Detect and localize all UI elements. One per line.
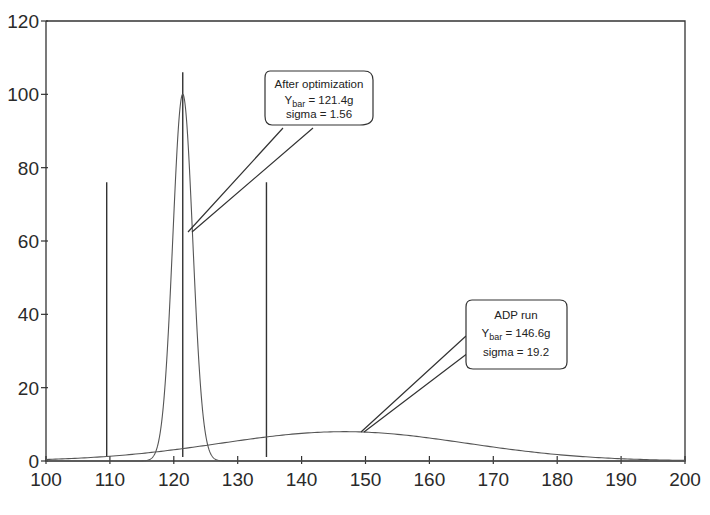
- callout-pointer: [188, 128, 313, 232]
- callout-title: ADP run: [494, 309, 537, 321]
- x-tick-label: 100: [30, 469, 62, 490]
- x-tick-label: 140: [286, 469, 318, 490]
- distribution-curves: [46, 94, 685, 461]
- y-tick-label: 20: [18, 378, 39, 399]
- spec-lines: [107, 72, 267, 457]
- adp-run-callout: ADP run Ybar = 146.6g sigma = 19.2: [361, 300, 567, 432]
- x-tick-label: 200: [669, 469, 701, 490]
- x-tick-label: 170: [477, 469, 509, 490]
- x-tick-label: 180: [541, 469, 573, 490]
- x-tick-label: 150: [350, 469, 382, 490]
- y-tick-label: 80: [18, 158, 39, 179]
- y-tick-label: 40: [18, 304, 39, 325]
- y-tick-label: 100: [7, 84, 39, 105]
- curve-after-optimization: [46, 94, 685, 461]
- x-tick-label: 190: [605, 469, 637, 490]
- callout-pointer: [361, 336, 468, 432]
- callout-title: After optimization: [275, 78, 364, 90]
- y-tick-label: 60: [18, 231, 39, 252]
- callout-sigma: sigma = 19.2: [483, 346, 549, 358]
- callout-sigma: sigma = 1.56: [286, 108, 352, 120]
- x-tick-label: 110: [95, 469, 125, 490]
- after-optimization-callout: After optimization Ybar = 121.4g sigma =…: [188, 71, 373, 232]
- x-tick-label: 120: [158, 469, 190, 490]
- distribution-chart: 0204060801001201001101201301401501601701…: [0, 0, 710, 515]
- x-tick-label: 130: [222, 469, 254, 490]
- x-tick-label: 160: [414, 469, 446, 490]
- y-tick-label: 120: [7, 11, 39, 32]
